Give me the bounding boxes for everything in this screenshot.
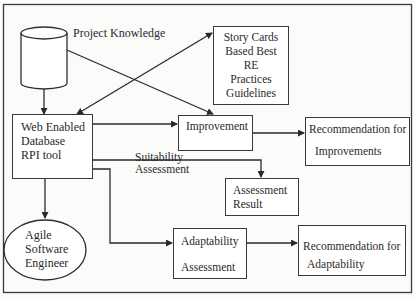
recommendation-improvements-node: Recommendation for Improvements <box>305 117 410 166</box>
recommendation-adaptability-node: Recommendation for Adaptability <box>298 225 406 276</box>
improvement-node: Improvement <box>178 115 253 151</box>
project-knowledge-label: Project Knowledge <box>73 27 165 40</box>
story-cards-line-4: Practices <box>214 73 288 86</box>
agile-engineer-line-1: Agile <box>25 229 52 242</box>
adaptability-assessment-node: Adaptability Assessment <box>173 228 247 279</box>
web-tool-line-1: Web Enabled <box>21 121 85 134</box>
story-cards-line-5: Guidelines <box>214 87 288 100</box>
improvement-label: Improvement <box>186 120 248 133</box>
rec-adaptability-line-2: Adaptability <box>307 258 365 271</box>
diagram-canvas: Project Knowledge Story Cards Based Best… <box>0 0 415 299</box>
story-cards-node: Story Cards Based Best RE Practices Guid… <box>213 26 289 105</box>
web-tool-node: Web Enabled Database RPI tool <box>12 114 93 179</box>
agile-engineer-line-3: Engineer <box>25 257 68 270</box>
assessment-result-line-1: Assessment <box>233 184 287 197</box>
adaptability-line-1: Adaptability <box>181 235 239 248</box>
assessment-result-line-2: Result <box>233 198 262 211</box>
agile-engineer-line-2: Software <box>25 243 68 256</box>
database-cylinder-icon <box>21 27 67 89</box>
adaptability-line-2: Assessment <box>181 261 235 274</box>
web-tool-line-3: RPI tool <box>21 149 61 162</box>
rec-adaptability-line-1: Recommendation for <box>303 240 400 253</box>
suitability-label-line-2: Assessment <box>135 163 189 176</box>
story-cards-line-3: RE <box>214 59 288 72</box>
rec-improvements-line-2: Improvements <box>315 145 381 158</box>
web-tool-line-2: Database <box>21 135 65 148</box>
assessment-result-node: Assessment Result <box>225 178 299 216</box>
story-cards-line-1: Story Cards <box>214 31 288 44</box>
story-cards-line-2: Based Best <box>214 45 288 58</box>
rec-improvements-line-1: Recommendation for <box>309 123 406 136</box>
